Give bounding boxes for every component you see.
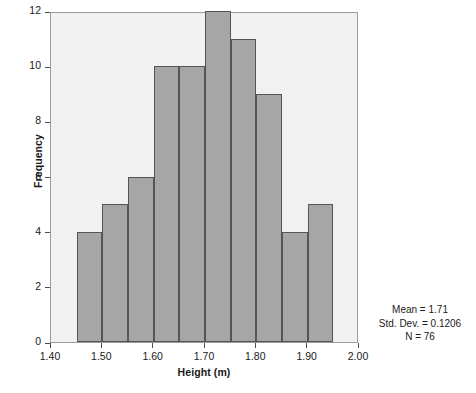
plot-area xyxy=(50,12,358,343)
x-tick-mark xyxy=(101,343,102,348)
y-tick-mark xyxy=(45,177,50,178)
x-axis-title: Height (m) xyxy=(50,366,358,378)
x-tick-label: 1.90 xyxy=(282,350,332,362)
histogram-bar xyxy=(282,232,308,342)
bars-container xyxy=(51,13,357,342)
histogram-bar xyxy=(154,66,180,342)
histogram-bar xyxy=(308,204,334,342)
histogram-bar xyxy=(256,94,282,342)
y-tick-label: 0 xyxy=(35,335,41,347)
stat-n: N = 76 xyxy=(366,330,474,344)
y-tick-label: 8 xyxy=(35,114,41,126)
x-tick-label: 1.60 xyxy=(128,350,178,362)
x-tick-mark xyxy=(255,343,256,348)
x-tick-mark xyxy=(358,343,359,348)
y-tick-mark xyxy=(45,232,50,233)
x-tick-label: 1.50 xyxy=(76,350,126,362)
histogram-bar xyxy=(77,232,103,342)
x-tick-label: 1.70 xyxy=(179,350,229,362)
y-tick-mark xyxy=(45,287,50,288)
x-tick-mark xyxy=(204,343,205,348)
x-tick-mark xyxy=(152,343,153,348)
histogram-bar xyxy=(179,66,205,342)
y-tick-label: 2 xyxy=(35,280,41,292)
y-tick-label: 10 xyxy=(29,59,41,71)
stat-std-dev: Std. Dev. = 0.1206 xyxy=(366,317,474,331)
y-tick-label: 6 xyxy=(35,170,41,182)
x-tick-mark xyxy=(306,343,307,348)
y-tick-mark xyxy=(45,122,50,123)
y-tick-mark xyxy=(45,12,50,13)
stat-mean: Mean = 1.71 xyxy=(366,303,474,317)
y-tick-label: 4 xyxy=(35,225,41,237)
histogram-bar xyxy=(205,11,231,342)
y-tick-mark xyxy=(45,67,50,68)
statistics-annotation: Mean = 1.71 Std. Dev. = 0.1206 N = 76 xyxy=(366,303,474,344)
x-tick-mark xyxy=(50,343,51,348)
histogram-chart: Frequency 024681012 1.401.501.601.701.80… xyxy=(0,0,476,393)
x-tick-label: 1.80 xyxy=(230,350,280,362)
y-tick-label: 12 xyxy=(29,4,41,16)
histogram-bar xyxy=(128,177,154,343)
histogram-bar xyxy=(231,39,257,342)
x-tick-label: 2.00 xyxy=(333,350,383,362)
x-tick-label: 1.40 xyxy=(25,350,75,362)
histogram-bar xyxy=(102,204,128,342)
